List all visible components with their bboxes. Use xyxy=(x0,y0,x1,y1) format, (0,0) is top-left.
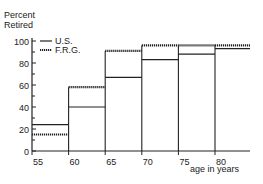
x-axis-label: age in years xyxy=(190,164,240,174)
data-series xyxy=(32,45,250,151)
legend: U.S. F.R.G. xyxy=(40,36,81,55)
y-tick-label: 80 xyxy=(19,59,29,69)
y-axis-label-line1: Percent xyxy=(4,10,36,20)
y-tick-label: 60 xyxy=(19,81,29,91)
retirement-step-chart: Percent Retired 020406080100556065707580… xyxy=(0,0,263,184)
y-tick-label: 100 xyxy=(14,37,29,47)
x-tick-label: 75 xyxy=(179,157,189,167)
y-axis-label-line2: Retired xyxy=(4,20,33,30)
legend-frg-label: F.R.G. xyxy=(55,45,81,55)
y-tick-label: 0 xyxy=(24,147,29,157)
y-tick-label: 40 xyxy=(19,103,29,113)
y-tick-label: 20 xyxy=(19,125,29,135)
x-tick-label: 60 xyxy=(70,157,80,167)
x-tick-label: 55 xyxy=(33,157,43,167)
x-tick-label: 70 xyxy=(143,157,153,167)
x-tick-label: 65 xyxy=(106,157,116,167)
